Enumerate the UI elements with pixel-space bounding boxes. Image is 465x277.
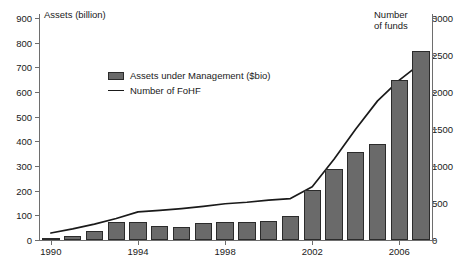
y-tick-left-800: 800 <box>6 38 32 49</box>
line-swatch-icon <box>108 90 124 91</box>
x-tickmark-1994 <box>138 241 139 245</box>
legend-label-fohf: Number of FoHF <box>130 85 201 96</box>
y-tickmark-left-0 <box>35 240 39 241</box>
y-tick-left-600: 600 <box>6 87 32 98</box>
y-tick-left-200: 200 <box>6 186 32 197</box>
y-tickmark-left-200 <box>35 191 39 192</box>
x-axis: 19901994199820022006 <box>40 246 432 260</box>
x-axis-spine <box>39 240 433 241</box>
legend: Assets under Management ($bio) Number of… <box>108 68 270 98</box>
x-tick-1994: 1994 <box>127 246 148 257</box>
x-tickmark-2002 <box>312 241 313 245</box>
y-tickmark-left-100 <box>35 215 39 216</box>
y-tickmark-right-500 <box>433 203 437 204</box>
y-tickmark-right-2500 <box>433 55 437 56</box>
y-tick-left-0: 0 <box>6 235 32 246</box>
y-tickmark-right-2000 <box>433 92 437 93</box>
bar-1992 <box>86 231 103 240</box>
bar-1996 <box>173 227 190 240</box>
x-tick-2006: 2006 <box>389 246 410 257</box>
bar-1997 <box>195 223 212 241</box>
bar-2006 <box>391 80 408 240</box>
bar-2005 <box>369 144 386 240</box>
y-tickmark-left-500 <box>35 117 39 118</box>
x-tick-1998: 1998 <box>215 246 236 257</box>
bar-1998 <box>216 222 233 240</box>
y-tickmark-right-1000 <box>433 166 437 167</box>
y-tick-left-900: 900 <box>6 13 32 24</box>
chart-container: Assets (billion) Number of funds 0100200… <box>0 0 465 277</box>
y-tickmark-left-900 <box>35 18 39 19</box>
y-tickmark-left-600 <box>35 92 39 93</box>
legend-item-fohf: Number of FoHF <box>108 83 270 98</box>
y-tickmark-right-0 <box>433 240 437 241</box>
bar-1993 <box>108 222 125 240</box>
y-axis-left: 0100200300400500600700800900 <box>2 0 32 277</box>
y-tick-left-300: 300 <box>6 161 32 172</box>
bar-2000 <box>260 221 277 240</box>
plot-area <box>40 18 432 240</box>
x-tickmark-1990 <box>51 241 52 245</box>
legend-item-assets: Assets under Management ($bio) <box>108 68 270 83</box>
y-tick-left-100: 100 <box>6 210 32 221</box>
x-tick-1990: 1990 <box>40 246 61 257</box>
bar-1995 <box>151 226 168 240</box>
y-tickmark-left-800 <box>35 43 39 44</box>
bar-swatch-icon <box>108 72 124 80</box>
bar-1994 <box>129 222 146 240</box>
y-tickmark-left-700 <box>35 67 39 68</box>
y-tick-left-400: 400 <box>6 136 32 147</box>
y-axis-right-spine <box>432 14 433 240</box>
x-tick-2002: 2002 <box>302 246 323 257</box>
bar-2004 <box>347 152 364 240</box>
y-axis-right: 050010001500200025003000 <box>432 0 464 277</box>
bar-2002 <box>304 190 321 240</box>
legend-label-assets: Assets under Management ($bio) <box>130 70 270 81</box>
x-tickmark-2006 <box>399 241 400 245</box>
y-tickmark-left-400 <box>35 141 39 142</box>
bar-2007 <box>412 51 429 240</box>
bar-2001 <box>282 216 299 240</box>
y-tickmark-right-1500 <box>433 129 437 130</box>
y-tick-left-500: 500 <box>6 112 32 123</box>
y-tick-left-700: 700 <box>6 62 32 73</box>
bar-2003 <box>325 169 342 240</box>
y-axis-left-spine <box>39 14 40 240</box>
x-tickmark-1998 <box>225 241 226 245</box>
y-tickmark-left-300 <box>35 166 39 167</box>
y-tickmark-right-3000 <box>433 18 437 19</box>
bar-1999 <box>238 222 255 240</box>
